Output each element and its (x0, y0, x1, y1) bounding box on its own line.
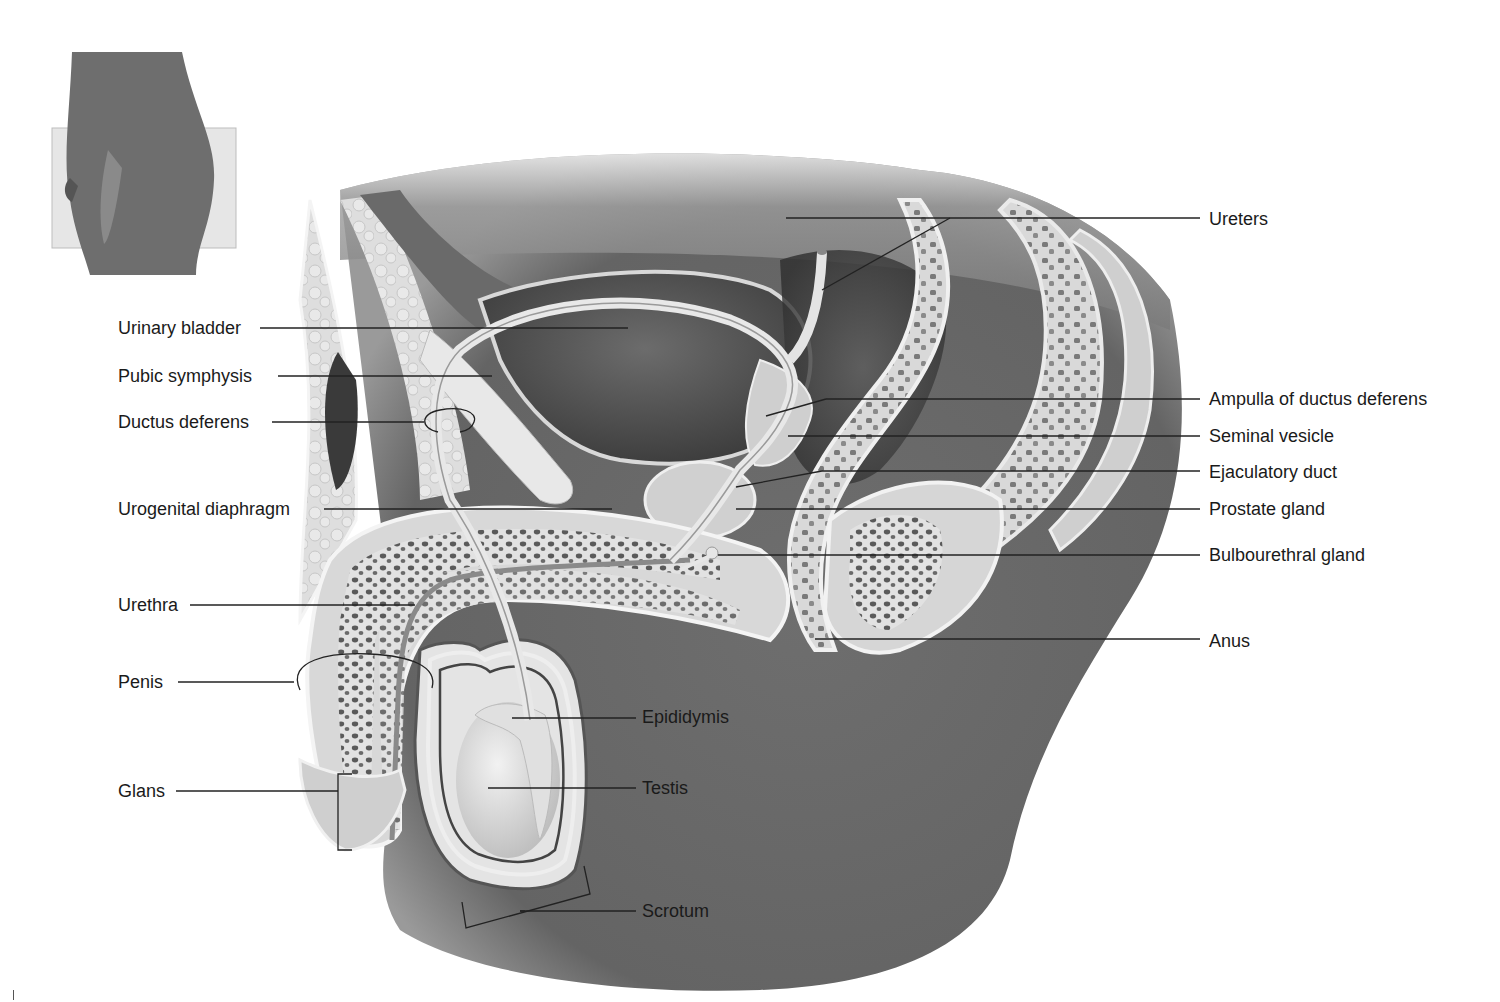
label-seminal-vesicle: Seminal vesicle (1209, 426, 1334, 446)
label-scrotum: Scrotum (642, 901, 709, 921)
label-pubic-symphysis: Pubic symphysis (118, 366, 252, 386)
label-urogenital-diaphragm: Urogenital diaphragm (118, 499, 290, 519)
label-prostate-gland: Prostate gland (1209, 499, 1325, 519)
label-bulbourethral-gland: Bulbourethral gland (1209, 545, 1365, 565)
label-ureters: Ureters (1209, 209, 1268, 229)
anatomy-diagram: Urinary bladder Pubic symphysis Ductus d… (0, 0, 1500, 1002)
label-glans: Glans (118, 781, 165, 801)
label-penis: Penis (118, 672, 163, 692)
label-epididymis: Epididymis (642, 707, 729, 727)
label-ductus-deferens: Ductus deferens (118, 412, 249, 432)
page-edge-mark (13, 990, 14, 1000)
label-urethra: Urethra (118, 595, 178, 615)
label-testis: Testis (642, 778, 688, 798)
label-ejaculatory-duct: Ejaculatory duct (1209, 462, 1337, 482)
label-urinary-bladder: Urinary bladder (118, 318, 241, 338)
label-anus: Anus (1209, 631, 1250, 651)
label-ampulla-of-ductus-deferens: Ampulla of ductus deferens (1209, 389, 1427, 409)
